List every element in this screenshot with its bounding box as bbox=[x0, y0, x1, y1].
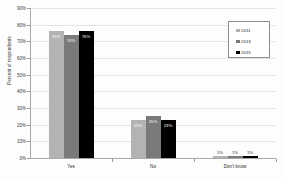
legend-label: 2011 bbox=[241, 28, 250, 33]
bar: 25% bbox=[146, 116, 161, 158]
y-tick-mark bbox=[27, 58, 30, 59]
y-tick-mark bbox=[27, 108, 30, 109]
x-category-label: No bbox=[150, 164, 156, 169]
bar-chart: Percent of respondents 0%10%20%30%40%50%… bbox=[0, 0, 285, 181]
gridline bbox=[31, 8, 276, 9]
y-tick-mark bbox=[27, 141, 30, 142]
bar: 23% bbox=[161, 120, 176, 158]
legend-swatch-icon bbox=[236, 40, 240, 44]
legend-item: 2013 bbox=[236, 39, 251, 44]
bar: 76% bbox=[49, 31, 64, 158]
y-tick-mark bbox=[27, 158, 30, 159]
bar-value-label: 76% bbox=[82, 34, 91, 39]
bar-value-label: 1% bbox=[217, 150, 223, 155]
legend-swatch-icon bbox=[236, 29, 240, 33]
y-axis-line bbox=[30, 8, 31, 159]
y-tick-label: 80% bbox=[17, 22, 26, 27]
legend-item: 2011 bbox=[236, 28, 250, 33]
y-tick-label: 60% bbox=[17, 56, 26, 61]
x-tick-mark bbox=[194, 159, 195, 162]
x-category-label: Yes bbox=[67, 164, 75, 169]
y-tick-label: 30% bbox=[17, 106, 26, 111]
bar-value-label: 25% bbox=[149, 119, 158, 124]
legend-label: 2015 bbox=[241, 50, 251, 55]
y-tick-label: 20% bbox=[17, 122, 26, 127]
x-tick-mark bbox=[276, 159, 277, 162]
y-axis-title: Percent of respondents bbox=[7, 25, 12, 97]
bar-value-label: 1% bbox=[232, 150, 238, 155]
legend-swatch-icon bbox=[236, 51, 240, 55]
bar-value-label: 76% bbox=[52, 34, 61, 39]
legend-label: 2013 bbox=[241, 39, 251, 44]
bar-value-label: 23% bbox=[164, 123, 173, 128]
y-tick-label: 70% bbox=[17, 39, 26, 44]
legend-item: 2015 bbox=[236, 50, 251, 55]
y-tick-mark bbox=[27, 125, 30, 126]
y-tick-label: 10% bbox=[17, 139, 26, 144]
bar: 76% bbox=[79, 31, 94, 158]
x-axis-line bbox=[30, 158, 276, 159]
y-tick-mark bbox=[27, 8, 30, 9]
bar: 23% bbox=[131, 120, 146, 158]
y-tick-mark bbox=[27, 91, 30, 92]
y-tick-label: 0% bbox=[19, 156, 26, 161]
x-tick-mark bbox=[112, 159, 113, 162]
y-tick-mark bbox=[27, 75, 30, 76]
bar: 1% bbox=[213, 156, 228, 158]
y-tick-label: 90% bbox=[17, 6, 26, 11]
y-tick-mark bbox=[27, 25, 30, 26]
legend: 201120132015 bbox=[228, 21, 270, 58]
x-category-label: Don't know bbox=[224, 164, 247, 169]
bar-value-label: 74% bbox=[67, 38, 76, 43]
bar: 74% bbox=[64, 35, 79, 158]
bar: 1% bbox=[243, 156, 258, 158]
bar: 1% bbox=[228, 156, 243, 158]
bar-value-label: 23% bbox=[134, 123, 143, 128]
y-tick-label: 50% bbox=[17, 72, 26, 77]
y-tick-label: 40% bbox=[17, 89, 26, 94]
bar-value-label: 1% bbox=[247, 150, 253, 155]
y-tick-mark bbox=[27, 41, 30, 42]
